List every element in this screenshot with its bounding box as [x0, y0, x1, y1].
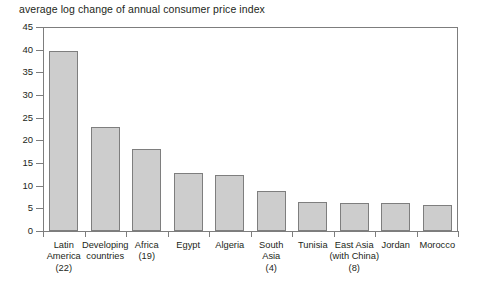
y-axis-tick	[36, 163, 43, 164]
y-axis-tick	[36, 186, 43, 187]
bar	[215, 175, 244, 231]
x-axis-tick	[168, 232, 169, 237]
y-axis-tick-label-wrap: 5	[0, 203, 33, 213]
y-axis-tick-label: 40	[3, 45, 33, 55]
bar	[49, 51, 78, 231]
x-axis-tick	[126, 232, 127, 237]
x-axis-tick	[292, 232, 293, 237]
y-axis-tick	[36, 118, 43, 119]
x-axis-tick	[209, 232, 210, 237]
y-axis-tick-label-wrap: 0	[0, 226, 33, 236]
y-axis-tick-label-wrap: 25	[0, 113, 33, 123]
x-axis-tick	[458, 232, 459, 237]
bar	[91, 127, 120, 231]
x-axis-tick	[417, 232, 418, 237]
y-axis-tick-label-wrap: 30	[0, 90, 33, 100]
y-axis-tick	[36, 231, 43, 232]
x-axis-category-label-line: Morocco	[407, 240, 467, 251]
x-axis-tick	[251, 232, 252, 237]
y-axis-tick-label-wrap: 35	[0, 67, 33, 77]
bar	[132, 149, 161, 231]
x-axis-category-label-line: (22)	[34, 263, 94, 274]
y-axis-tick-label-wrap: 10	[0, 181, 33, 191]
y-axis-tick-label: 10	[3, 181, 33, 191]
bar	[381, 203, 410, 231]
y-axis-tick-label: 35	[3, 67, 33, 77]
y-axis-tick-label-wrap: 45	[0, 22, 33, 32]
x-axis-category-label-line: (8)	[324, 263, 384, 274]
bar	[174, 173, 203, 231]
y-axis-tick-label: 45	[3, 22, 33, 32]
y-axis-tick	[36, 50, 43, 51]
y-axis-tick	[36, 140, 43, 141]
bar	[423, 205, 452, 231]
x-axis-category-label: Morocco	[407, 240, 467, 251]
y-axis-tick-label: 20	[3, 135, 33, 145]
x-axis-tick	[85, 232, 86, 237]
bar	[257, 191, 286, 231]
y-axis-tick-label: 0	[3, 226, 33, 236]
x-axis-category-label-line: (with China)	[324, 251, 384, 262]
x-axis-category-label-line: (4)	[241, 263, 301, 274]
bar	[298, 202, 327, 231]
y-axis-tick-label: 15	[3, 158, 33, 168]
bar	[340, 203, 369, 231]
x-axis-category-label-line: (19)	[117, 251, 177, 262]
y-axis-tick-label-wrap: 20	[0, 135, 33, 145]
y-axis-tick	[36, 72, 43, 73]
bar-chart-figure: average log change of annual consumer pr…	[0, 0, 477, 290]
bar-series	[43, 27, 458, 231]
y-axis-tick-label-wrap: 40	[0, 45, 33, 55]
y-axis-tick-label-wrap: 15	[0, 158, 33, 168]
y-axis-tick	[36, 95, 43, 96]
y-axis-tick	[36, 208, 43, 209]
y-axis-tick-label: 25	[3, 113, 33, 123]
y-axis-tick-label: 5	[3, 203, 33, 213]
y-axis-tick-label: 30	[3, 90, 33, 100]
x-axis-tick	[43, 232, 44, 237]
y-axis-tick	[36, 27, 43, 28]
x-axis-tick	[375, 232, 376, 237]
x-axis-tick	[334, 232, 335, 237]
x-axis-category-label-line: Asia	[241, 251, 301, 262]
chart-title: average log change of annual consumer pr…	[19, 3, 265, 16]
